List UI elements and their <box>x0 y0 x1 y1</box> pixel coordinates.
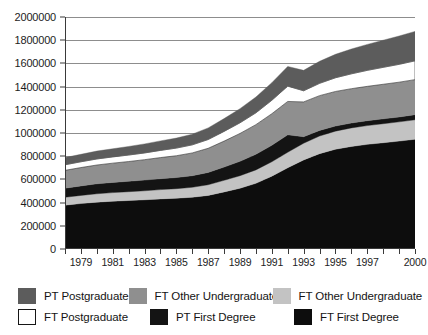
legend-swatch-other-undergraduate-light <box>273 288 291 304</box>
x-tick-label: 1993 <box>292 256 315 268</box>
stacked-area-chart: 0200000400000600000800000100000012000001… <box>0 0 428 335</box>
x-tick-label: 1983 <box>133 256 156 268</box>
x-axis: 1979198119831985198719891991199319951997… <box>65 249 415 281</box>
legend-item-ft-first-degree: FT First Degree <box>294 309 399 325</box>
y-tick-label: 800000 <box>20 150 56 162</box>
legend-label-ft-first-degree: FT First Degree <box>320 311 399 323</box>
x-tick-mark <box>176 249 177 254</box>
x-tick-mark <box>192 249 193 254</box>
legend-swatch-other-undergraduate-mid <box>129 288 147 304</box>
x-tick-mark <box>351 249 352 254</box>
x-tick-mark <box>399 249 400 254</box>
legend-label-pt-postgraduate: PT Postgraduate <box>44 290 129 302</box>
y-tick-label: 1000000 <box>15 127 56 139</box>
x-tick-mark <box>383 249 384 254</box>
y-tick-label: 1400000 <box>15 81 56 93</box>
x-tick-mark <box>97 249 98 254</box>
y-tick-label: 1800000 <box>15 34 56 46</box>
legend-item-other-undergraduate-light: FT Other Undergraduate <box>273 288 423 304</box>
x-tick-label: 1997 <box>356 256 379 268</box>
x-tick-mark <box>256 249 257 254</box>
x-tick-mark <box>145 249 146 254</box>
y-tick-label: 600000 <box>20 173 56 185</box>
y-tick-label: 2000000 <box>15 11 56 23</box>
legend-swatch-pt-first-degree <box>150 309 168 325</box>
legend-label-ft-postgraduate: FT Postgraduate <box>44 311 128 323</box>
x-tick-mark <box>113 249 114 254</box>
legend-swatch-ft-postgraduate <box>18 309 36 325</box>
legend-row-top: PT Postgraduate FT Other Undergraduate F… <box>18 285 418 306</box>
y-tick-label: 1600000 <box>15 57 56 69</box>
x-tick-label: 1981 <box>101 256 124 268</box>
x-tick-mark <box>160 249 161 254</box>
x-tick-label: 1989 <box>229 256 252 268</box>
x-tick-mark <box>240 249 241 254</box>
legend-label-other-undergraduate-light: FT Other Undergraduate <box>299 290 423 302</box>
x-tick-mark <box>367 249 368 254</box>
legend-item-pt-first-degree: PT First Degree <box>150 309 294 325</box>
x-tick-mark <box>208 249 209 254</box>
x-tick-label: 1979 <box>70 256 93 268</box>
legend-item-ft-postgraduate: FT Postgraduate <box>18 309 150 325</box>
y-tick-label: 1200000 <box>15 104 56 116</box>
legend-item-other-undergraduate-mid: FT Other Undergraduate <box>129 288 273 304</box>
x-tick-mark <box>272 249 273 254</box>
y-tick-label: 200000 <box>20 220 56 232</box>
x-tick-mark <box>65 249 66 254</box>
x-tick-mark <box>288 249 289 254</box>
x-tick-label: 1991 <box>261 256 284 268</box>
x-tick-label: 2000 <box>404 256 427 268</box>
plot-frame <box>65 17 415 249</box>
x-tick-mark <box>415 249 416 254</box>
legend-row-bottom: FT Postgraduate PT First Degree FT First… <box>18 306 418 327</box>
y-tick-label: 400000 <box>20 197 56 209</box>
legend-label-pt-first-degree: PT First Degree <box>176 311 255 323</box>
x-tick-label: 1987 <box>197 256 220 268</box>
legend-label-other-undergraduate-mid: FT Other Undergraduate <box>155 290 279 302</box>
x-tick-mark <box>304 249 305 254</box>
x-tick-mark <box>335 249 336 254</box>
legend-item-pt-postgraduate: PT Postgraduate <box>18 288 129 304</box>
x-tick-mark <box>129 249 130 254</box>
x-tick-label: 1985 <box>165 256 188 268</box>
x-tick-label: 1995 <box>324 256 347 268</box>
y-tick-label: 0 <box>50 243 56 255</box>
plot-area <box>65 17 415 249</box>
chart-legend: PT Postgraduate FT Other Undergraduate F… <box>18 285 418 327</box>
x-tick-mark <box>320 249 321 254</box>
y-axis: 0200000400000600000800000100000012000001… <box>0 0 65 252</box>
legend-swatch-ft-first-degree <box>294 309 312 325</box>
x-tick-mark <box>81 249 82 254</box>
legend-swatch-pt-postgraduate <box>18 288 36 304</box>
x-tick-mark <box>224 249 225 254</box>
